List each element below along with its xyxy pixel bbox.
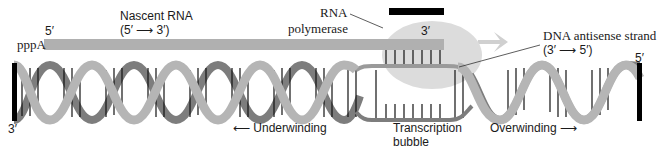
nascent-rna-title: Nascent RNA <box>120 10 193 23</box>
dna-right-end-label: 5′ <box>635 52 644 65</box>
antisense-direction: (3′ ⟶ 5′) <box>543 44 593 57</box>
rna-polymerase <box>382 21 508 89</box>
rna-3prime-label: 3′ <box>421 25 430 38</box>
polymerase-leader-line <box>350 14 383 28</box>
polymerase-label-line2: polymerase <box>288 22 348 35</box>
rna-start-label: pppA <box>17 38 46 51</box>
dna-left-end-bar <box>12 63 17 121</box>
dna-helix <box>12 63 642 121</box>
dna-right-end-bar <box>637 63 642 121</box>
antisense-title: DNA antisense strand <box>543 29 656 42</box>
dna-left-end-label: 3′ <box>8 123 17 136</box>
rna-5prime-label: 5′ <box>45 25 54 38</box>
dna-strand-light-right <box>458 65 640 120</box>
nascent-rna-strand <box>44 39 444 50</box>
nascent-rna-direction: (5′ ⟶ 3′) <box>120 24 170 37</box>
polymerase-label-line1: RNA <box>320 6 347 19</box>
underwinding-label: ⟵ Underwinding <box>233 122 327 135</box>
transcription-diagram: Nascent RNA (5′ ⟶ 3′) 5′ pppA RNA polyme… <box>0 0 661 152</box>
top-bar <box>389 8 444 15</box>
bubble-label-line2: bubble <box>393 136 429 149</box>
overwinding-label: Overwinding ⟶ <box>490 122 577 135</box>
bubble-label-line1: Transcription <box>393 122 462 135</box>
